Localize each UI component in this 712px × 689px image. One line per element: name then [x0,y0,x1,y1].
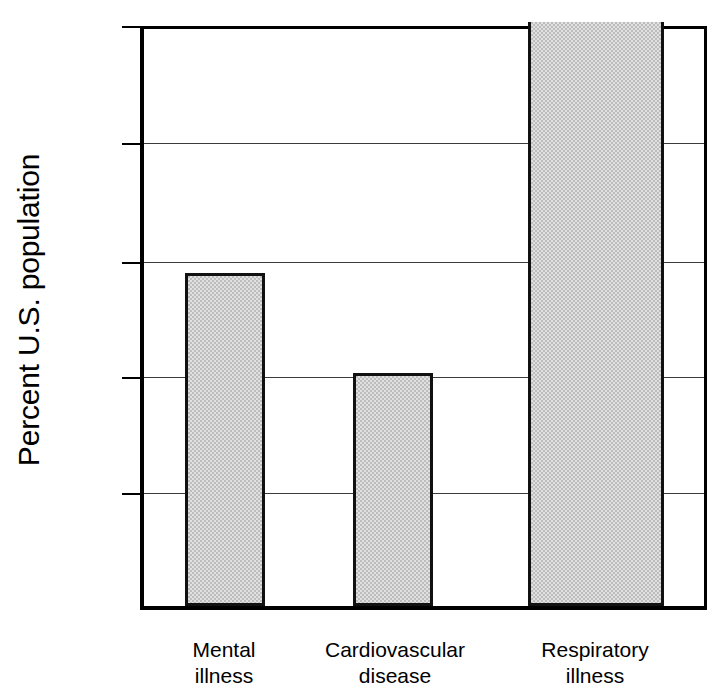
bar-cardiovascular-disease[interactable] [353,373,433,606]
y-axis-title: Percent U.S. population [0,0,58,620]
x-tick-label-respiratory-illness: Respiratory illness [520,637,670,688]
x-tick-label-line1: Respiratory [541,638,648,661]
y-tick-mark-30 [122,262,142,264]
bar-mental-illness[interactable] [185,273,265,606]
y-tick-mark-50 [122,26,142,28]
x-tick-label-line2: disease [316,663,474,689]
x-tick-label-mental-illness: Mental illness [150,637,298,688]
y-tick-mark-40 [122,143,142,145]
y-tick-mark-10 [122,493,142,495]
x-tick-label-line2: illness [150,663,298,689]
plot-area [140,26,707,610]
bar-chart: Percent U.S. population 50 40 30 20 10 0… [0,0,712,689]
y-axis-title-text: Percent U.S. population [12,154,46,466]
x-tick-label-line1: Cardiovascular [325,638,465,661]
x-tick-label-line2: illness [520,663,670,689]
bar-respiratory-illness[interactable] [528,22,664,606]
y-tick-mark-20 [122,377,142,379]
x-tick-label-line1: Mental [192,638,255,661]
x-tick-label-cardiovascular-disease: Cardiovascular disease [316,637,474,688]
